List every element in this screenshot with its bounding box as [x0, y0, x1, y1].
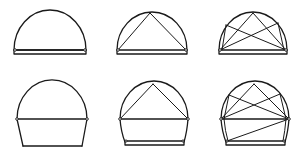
panel-bottom-1-raised-arch: [16, 80, 89, 146]
panel-bottom-2-raised-triangle-arch: [119, 81, 190, 145]
panel-top-3-braced-arch: [219, 12, 288, 54]
panel-top-1-plain-arch: [14, 10, 87, 54]
arch-diagram-figure: [0, 0, 304, 157]
panel-top-2-triangle-arch: [117, 12, 188, 54]
panel-bottom-3-raised-braced-arch: [220, 81, 291, 145]
